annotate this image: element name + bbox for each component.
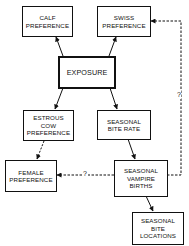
node-calf-preference: CALF PREFERENCE [22,6,73,37]
node-label: SEASONAL VAMPIRE BIRTHS [124,167,158,189]
arrow-exposure-swiss [109,37,116,56]
arrow-exposure-bite-rate [110,88,117,109]
node-seasonal-bite-rate: SEASONAL BITE RATE [97,110,151,140]
node-seasonal-vampire-births: SEASONAL VAMPIRE BIRTHS [114,160,168,197]
node-label: FEMALE PREFERENCE [9,169,52,184]
arrow-bite-rate-births [128,139,135,159]
node-label: ESTROUS COW PREFERENCE [27,114,70,136]
node-label: SEASONAL BITE LOCATIONS [140,217,176,239]
uncertain-mark-female: ? [82,170,88,177]
node-swiss-preference: SWISS PREFERENCE [97,6,151,37]
arrow-exposure-calf [56,37,63,56]
arrow-births-locations [146,196,153,211]
node-label: SWISS PREFERENCE [102,14,145,29]
node-estrous-cow-preference: ESTROUS COW PREFERENCE [23,110,74,141]
node-exposure: EXPOSURE [58,56,116,89]
uncertain-mark-swiss: ? [177,90,181,99]
node-label: CALF PREFERENCE [26,14,69,29]
node-seasonal-bite-locations: SEASONAL BITE LOCATIONS [132,212,184,245]
node-label: SEASONAL BITE RATE [107,118,141,133]
node-label: EXPOSURE [67,69,108,76]
node-female-preference: FEMALE PREFERENCE [5,160,57,192]
arrow-exposure-estrous [55,88,63,109]
arrow-estrous-female [37,141,44,159]
